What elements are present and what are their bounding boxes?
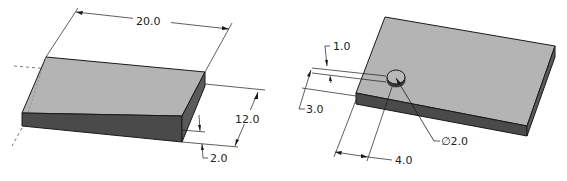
dim-width-label: 12.0 — [235, 113, 260, 126]
dim-boss-diameter-label: ∅2.0 — [441, 135, 468, 148]
dim-boss-height-label: 1.0 — [333, 40, 351, 53]
left-plate: 20.0 12.0 2.0 — [12, 8, 271, 165]
dim-length-label: 20.0 — [136, 15, 161, 28]
drawing-svg: 20.0 12.0 2.0 — [0, 0, 567, 181]
dim-thickness-label: 2.0 — [210, 152, 228, 165]
dim-boss-offset-y-label: 3.0 — [306, 103, 324, 116]
right-plate: 1.0 3.0 4.0 ∅2.0 — [299, 17, 555, 167]
technical-drawing: 20.0 12.0 2.0 — [0, 0, 567, 181]
dim-boss-offset-x-label: 4.0 — [395, 154, 413, 167]
